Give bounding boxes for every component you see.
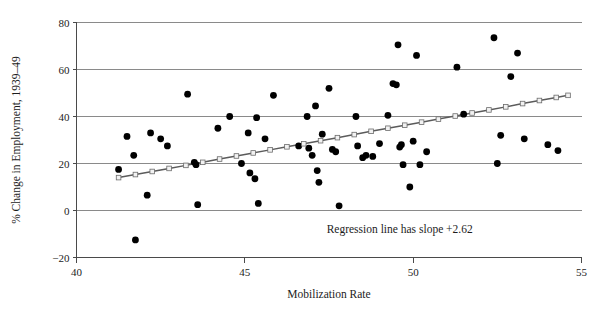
y-tick-label-80: 80 <box>59 17 71 29</box>
data-point <box>194 201 201 208</box>
data-point <box>363 152 370 159</box>
regression-line-marker <box>301 141 306 146</box>
data-point <box>184 91 191 98</box>
regression-line-marker <box>268 148 273 153</box>
x-tick-label-45: 45 <box>239 266 251 278</box>
regression-line-marker <box>520 101 525 106</box>
regression-line-marker <box>200 160 205 165</box>
data-point <box>115 166 122 173</box>
data-point <box>406 184 413 191</box>
y-tick-label-20: 20 <box>59 158 71 170</box>
data-point <box>326 85 333 92</box>
data-point <box>494 160 501 167</box>
regression-line-marker <box>116 175 121 180</box>
data-point <box>312 103 319 110</box>
x-tick-label-55: 55 <box>576 266 588 278</box>
data-point <box>369 153 376 160</box>
regression-line-marker <box>335 135 340 140</box>
data-point <box>413 52 420 59</box>
y-tick-label-0: 0 <box>64 205 70 217</box>
data-point <box>491 34 498 41</box>
data-point <box>460 111 467 118</box>
data-point <box>400 161 407 168</box>
data-point <box>398 141 405 148</box>
data-point <box>193 161 200 168</box>
data-point <box>507 73 514 80</box>
data-point <box>147 130 154 137</box>
regression-line-marker <box>487 108 492 113</box>
regression-line-marker <box>285 145 290 150</box>
data-point <box>255 200 262 207</box>
data-point <box>144 192 151 199</box>
y-tick-label-60: 60 <box>59 64 71 76</box>
data-point <box>544 141 551 148</box>
data-point <box>226 113 233 120</box>
data-point <box>423 148 430 155</box>
regression-line-marker <box>251 151 256 156</box>
regression-line-marker <box>453 114 458 119</box>
data-point <box>376 140 383 147</box>
data-point <box>132 236 139 243</box>
data-point <box>497 132 504 139</box>
data-point <box>385 112 392 119</box>
data-point <box>215 125 222 132</box>
regression-line-marker <box>419 120 424 125</box>
data-point <box>252 175 259 182</box>
data-point <box>304 113 311 120</box>
regression-line-marker <box>537 98 542 103</box>
data-point <box>316 179 323 186</box>
data-point <box>454 64 461 71</box>
data-point <box>124 133 131 140</box>
data-point <box>262 135 269 142</box>
y-tick-label--20: −20 <box>52 252 70 264</box>
x-tick-label-40: 40 <box>71 266 83 278</box>
data-point <box>336 202 343 209</box>
regression-line-marker <box>234 154 239 159</box>
chart-canvas: −2002040608040455055Mobilization Rate% C… <box>0 0 610 313</box>
data-point <box>395 41 402 48</box>
data-point <box>309 152 316 159</box>
data-point <box>410 138 417 145</box>
data-point <box>353 113 360 120</box>
regression-line-marker <box>352 132 357 137</box>
data-point <box>514 50 521 57</box>
data-point <box>130 152 137 159</box>
data-point <box>319 131 326 138</box>
regression-line-marker <box>167 166 172 171</box>
data-point <box>245 130 252 137</box>
data-point <box>417 161 424 168</box>
data-point <box>332 148 339 155</box>
data-point <box>555 147 562 154</box>
data-point <box>354 142 361 149</box>
data-point <box>314 167 321 174</box>
regression-line-marker <box>402 123 407 128</box>
data-point <box>238 160 245 167</box>
scatter-plot-figure: −2002040608040455055Mobilization Rate% C… <box>0 0 610 313</box>
data-point <box>164 142 171 149</box>
regression-line-marker <box>436 117 441 122</box>
data-point <box>270 92 277 99</box>
x-axis-title: Mobilization Rate <box>287 288 370 300</box>
data-point <box>157 135 164 142</box>
regression-line-marker <box>503 105 508 110</box>
data-point <box>393 81 400 88</box>
regression-line-marker <box>369 129 374 134</box>
x-tick-label-50: 50 <box>408 266 420 278</box>
regression-line-marker <box>470 111 475 116</box>
regression-line-marker <box>133 172 138 177</box>
data-point <box>253 114 260 121</box>
regression-line-marker <box>217 157 222 162</box>
regression-line-marker <box>554 95 559 100</box>
regression-line-marker <box>566 93 571 98</box>
regression-slope-annotation: Regression line has slope +2.62 <box>327 223 473 236</box>
regression-line-marker <box>386 126 391 131</box>
y-axis-title: % Change in Employment, 1939–49 <box>10 56 23 224</box>
data-point <box>521 135 528 142</box>
y-tick-label-40: 40 <box>59 111 71 123</box>
regression-line-marker <box>150 169 155 174</box>
data-point <box>246 170 253 177</box>
regression-line-marker <box>184 163 189 168</box>
regression-line-marker <box>318 138 323 143</box>
